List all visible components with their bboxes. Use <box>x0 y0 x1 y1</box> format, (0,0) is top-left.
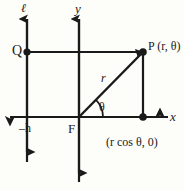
directrix-line-label: ℓ <box>21 2 26 14</box>
polar-coordinate-diagram: ℓ y x Q P (r, θ) r θ –h F (r cos θ, 0) <box>0 0 184 190</box>
point-p-marker <box>139 48 147 56</box>
radius-segment <box>79 55 141 118</box>
point-q-marker <box>23 48 30 55</box>
point-p-label: P (r, θ) <box>148 40 180 52</box>
foot-point-label: (r cos θ, 0) <box>106 136 158 148</box>
focus-label: F <box>68 122 75 135</box>
directrix-distance-label: –h <box>19 122 31 134</box>
point-q-label: Q <box>12 44 22 58</box>
diagram-canvas <box>0 0 184 190</box>
x-axis-label: x <box>170 110 176 123</box>
point-foot-marker <box>139 113 147 121</box>
radius-label: r <box>101 72 106 84</box>
y-axis-label: y <box>75 2 81 15</box>
theta-angle-label: θ <box>99 101 105 113</box>
